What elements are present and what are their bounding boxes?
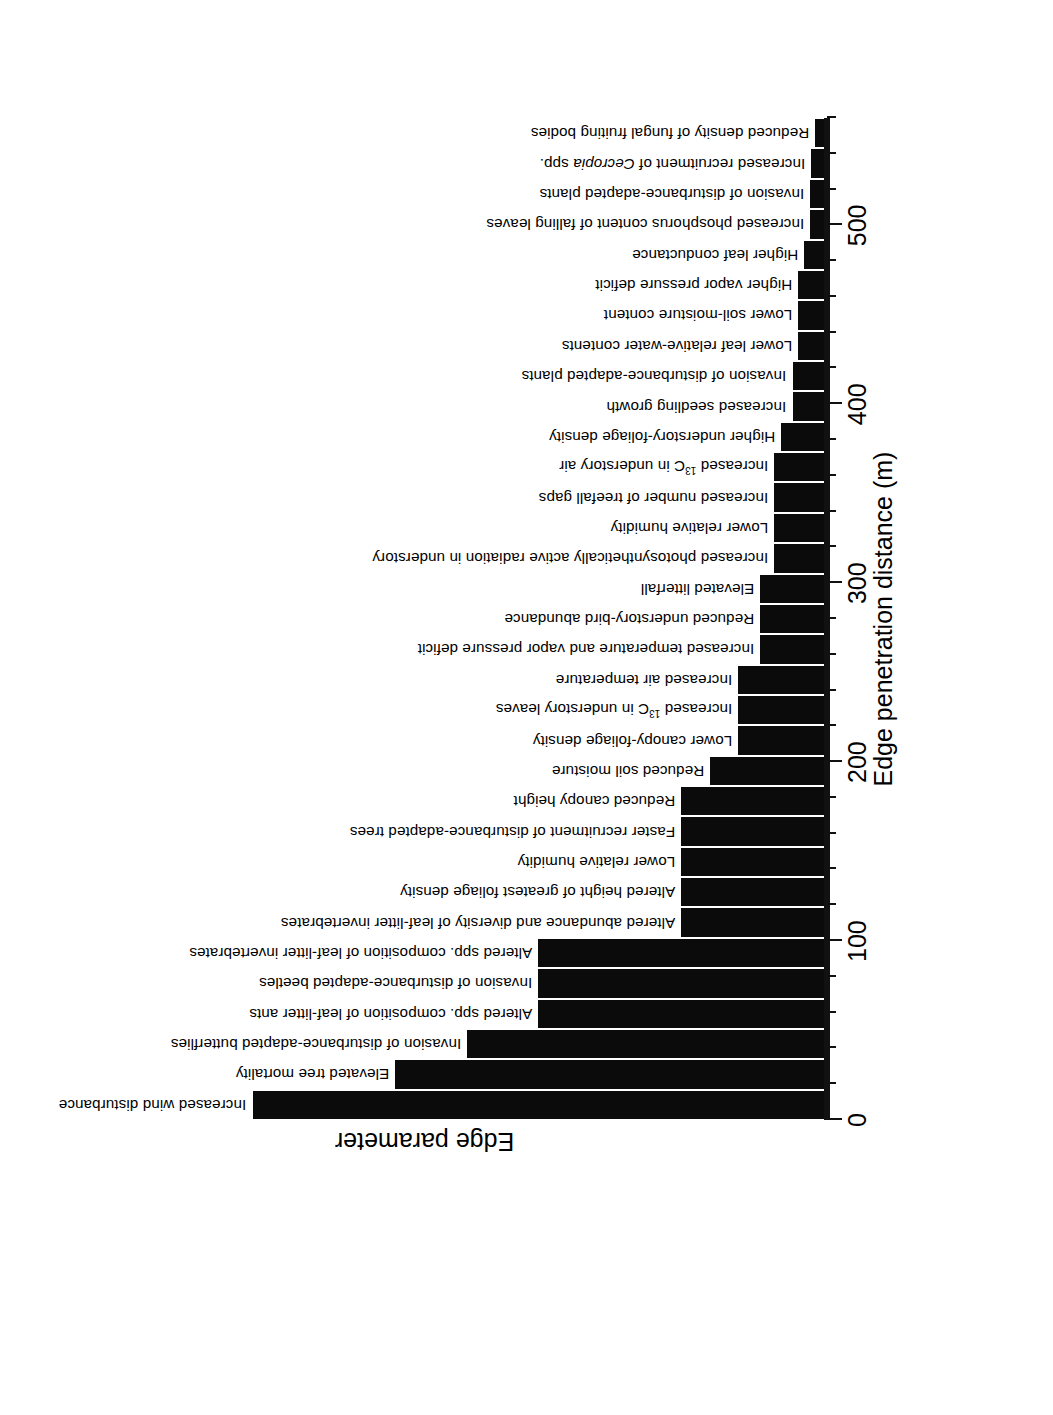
- bar-category-label: Increased 13C in understory leaves: [496, 702, 733, 718]
- bar-category-label: Increased wind disturbance: [59, 1097, 247, 1112]
- bar[interactable]: [538, 999, 824, 1029]
- bar[interactable]: [798, 331, 824, 361]
- bar-category-label: Elevated tree mortality: [236, 1067, 389, 1082]
- bar[interactable]: [774, 513, 824, 543]
- bar[interactable]: [681, 816, 824, 846]
- bar[interactable]: [810, 179, 824, 209]
- bar[interactable]: [538, 938, 824, 968]
- bar[interactable]: [760, 634, 824, 664]
- bar[interactable]: [804, 240, 824, 270]
- bar-cell: Higher vapor pressure deficit: [24, 270, 824, 300]
- axis-tick-minor: [827, 832, 836, 834]
- bar-cell: Invasion of disturbance-adapted beetles: [24, 968, 824, 998]
- bar[interactable]: [681, 877, 824, 907]
- bar-cell: Increased photosynthetically active radi…: [24, 543, 824, 573]
- axis-tick-minor: [827, 545, 836, 547]
- bar-category-label: Altered abundance and diversity of leaf-…: [281, 915, 675, 930]
- bar-category-label: Increased number of treefall gaps: [538, 490, 768, 505]
- bar[interactable]: [760, 574, 824, 604]
- bar[interactable]: [681, 907, 824, 937]
- bar[interactable]: [538, 968, 824, 998]
- bar-cell: Higher understory-foliage density: [24, 422, 824, 452]
- bar-category-label: Lower soil-moisture content: [604, 308, 792, 323]
- bar-category-label: Lower relative humidity: [610, 520, 768, 535]
- bar-cell: Invasion of disturbance-adapted butterfl…: [24, 1029, 824, 1059]
- axis-tick-minor: [827, 116, 836, 118]
- bar-category-label: Invasion of disturbance-adapted plants: [539, 186, 804, 201]
- bar-cell: Increased seedling growth: [24, 391, 824, 421]
- value-axis: 0100200300400500 Edge penetration distan…: [827, 118, 897, 1120]
- bar[interactable]: [681, 847, 824, 877]
- axis-tick-minor: [827, 152, 836, 154]
- bar[interactable]: [798, 270, 824, 300]
- bar-category-label: Increased 13C in understory air: [559, 459, 768, 475]
- bar[interactable]: [781, 422, 824, 452]
- bar-cell: Increased number of treefall gaps: [24, 482, 824, 512]
- axis-tick-minor: [827, 295, 836, 297]
- axis-tick-minor: [827, 903, 836, 905]
- bar-cell: Increased temperature and vapor pressure…: [24, 634, 824, 664]
- bar-cell: Increased 13C in understory leaves: [24, 695, 824, 725]
- bar[interactable]: [738, 695, 824, 725]
- bar-cell: Increased air temperature: [24, 665, 824, 695]
- axis-tick-minor: [827, 331, 836, 333]
- bar[interactable]: [395, 1059, 824, 1089]
- bar[interactable]: [738, 665, 824, 695]
- axis-tick-minor: [827, 510, 836, 512]
- bar-category-label: Reduced density of fungal fruiting bodie…: [531, 126, 810, 141]
- axis-tick-major: [827, 581, 842, 583]
- bar-cell: Lower leaf relative-water contents: [24, 331, 824, 361]
- bar-category-label: Invasion of disturbance-adapted beetles: [259, 976, 532, 991]
- bar[interactable]: [774, 482, 824, 512]
- bar[interactable]: [774, 543, 824, 573]
- axis-tick-minor: [827, 1011, 836, 1013]
- bar[interactable]: [798, 300, 824, 330]
- bar-category-label: Increased air temperature: [556, 672, 732, 687]
- axis-tick-minor: [827, 1046, 836, 1048]
- axis-tick-minor: [827, 188, 836, 190]
- bar-category-label: Faster recruitment of disturbance-adapte…: [350, 824, 675, 839]
- bar-cell: Lower relative humidity: [24, 513, 824, 543]
- bar[interactable]: [774, 452, 824, 482]
- axis-tick-major: [827, 402, 842, 404]
- bar[interactable]: [815, 118, 824, 148]
- bar-category-label: Invasion of disturbance-adapted butterfl…: [170, 1037, 461, 1052]
- bar-cell: Elevated tree mortality: [24, 1059, 824, 1089]
- axis-tick-label: 300: [845, 562, 870, 604]
- axis-tick-label: 200: [845, 741, 870, 783]
- bar[interactable]: [738, 725, 824, 755]
- bar[interactable]: [811, 149, 824, 179]
- bar-category-label: Increased seedling growth: [607, 399, 787, 414]
- axis-tick-minor: [827, 796, 836, 798]
- bar-category-label: Higher understory-foliage density: [549, 429, 775, 444]
- axis-tick-minor: [827, 259, 836, 261]
- bar[interactable]: [760, 604, 824, 634]
- bar-cell: Altered height of greatest foliage densi…: [24, 877, 824, 907]
- axis-tick-minor: [827, 724, 836, 726]
- bar-category-label: Increased recruitment of Cecropia spp.: [540, 156, 806, 171]
- bar-category-label: Higher leaf conductance: [632, 247, 798, 262]
- bar[interactable]: [681, 786, 824, 816]
- bar[interactable]: [710, 756, 824, 786]
- bar-category-label: Higher vapor pressure deficit: [595, 278, 792, 293]
- bar-cell: Increased 13C in understory air: [24, 452, 824, 482]
- bar-category-label: Lower canopy-foliage density: [533, 733, 733, 748]
- axis-tick-minor: [827, 474, 836, 476]
- bar[interactable]: [793, 361, 824, 391]
- axis-tick-minor: [827, 975, 836, 977]
- bar[interactable]: [810, 209, 824, 239]
- plot-area: Increased wind disturbanceElevated tree …: [22, 118, 827, 1120]
- bar-category-label: Reduced soil moisture: [551, 763, 703, 778]
- value-axis-title: Edge penetration distance (m): [869, 118, 898, 1120]
- bar[interactable]: [467, 1029, 824, 1059]
- bar-series: Increased wind disturbanceElevated tree …: [24, 118, 824, 1120]
- axis-tick-minor: [827, 689, 836, 691]
- bar-cell: Reduced canopy height: [24, 786, 824, 816]
- axis-tick-minor: [827, 868, 836, 870]
- axis-tick-label: 100: [845, 920, 870, 962]
- bar-category-label: Reduced canopy height: [513, 794, 675, 809]
- bar[interactable]: [253, 1090, 824, 1120]
- figure-stage: Edge parameter Increased wind disturbanc…: [0, 0, 900, 1240]
- bar[interactable]: [793, 391, 824, 421]
- bar-cell: Reduced understory-bird abundance: [24, 604, 824, 634]
